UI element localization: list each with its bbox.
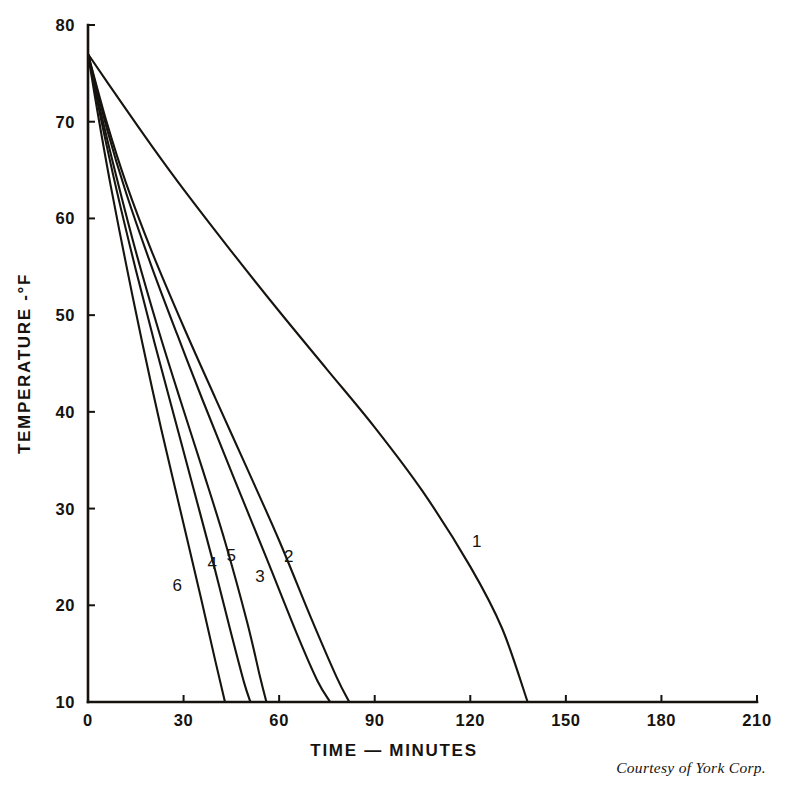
data-curves <box>88 54 528 702</box>
y-tick-label: 50 <box>55 306 75 324</box>
y-tick-label: 80 <box>55 16 75 34</box>
x-axis-title: TIME — MINUTES <box>310 741 477 760</box>
x-tick-label: 90 <box>365 711 385 729</box>
x-tick-label: 60 <box>269 711 289 729</box>
curve-label-2: 2 <box>284 547 293 566</box>
y-tick-label: 60 <box>55 209 75 227</box>
y-axis-tick-labels: 1020304050607080 <box>55 16 75 711</box>
y-tick-label: 70 <box>55 113 75 131</box>
curve-label-1: 1 <box>472 532 481 551</box>
curve-label-4: 4 <box>208 554 217 573</box>
x-tick-label: 0 <box>83 711 93 729</box>
x-tick-label: 180 <box>647 711 676 729</box>
cooling-curve-chart: 0306090120150180210 1020304050607080 123… <box>0 0 788 791</box>
x-tick-label: 120 <box>456 711 485 729</box>
curve-label-6: 6 <box>172 576 181 595</box>
curve-label-3: 3 <box>255 567 264 586</box>
x-tick-label: 30 <box>174 711 194 729</box>
y-tick-label: 40 <box>55 403 75 421</box>
x-axis-tick-labels: 0306090120150180210 <box>83 711 772 729</box>
figure-container: 0306090120150180210 1020304050607080 123… <box>0 0 788 791</box>
curve-1 <box>88 54 528 702</box>
curve-3 <box>88 54 330 702</box>
x-tick-label: 150 <box>551 711 580 729</box>
y-tick-label: 20 <box>55 596 75 614</box>
y-axis-title: TEMPERATURE -°F <box>15 273 34 454</box>
x-tick-label: 210 <box>742 711 771 729</box>
curve-label-5: 5 <box>227 546 236 565</box>
credit-attribution: Courtesy of York Corp. <box>616 759 766 777</box>
y-tick-label: 10 <box>55 693 75 711</box>
y-tick-label: 30 <box>55 500 75 518</box>
curve-2 <box>88 54 349 702</box>
